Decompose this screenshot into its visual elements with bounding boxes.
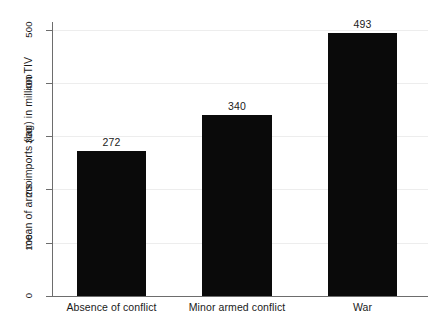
- bar-value-label: 272: [77, 136, 146, 148]
- y-axis-tick-label: 200: [23, 174, 34, 204]
- bar: [202, 115, 272, 296]
- y-axis-tick-label: 400: [23, 67, 34, 97]
- y-axis-tick-label: 300: [23, 121, 34, 151]
- x-axis-line: [52, 296, 428, 297]
- bar: [328, 33, 397, 296]
- y-axis-tick-label: 500: [23, 14, 34, 44]
- bar: [77, 151, 146, 296]
- bar-value-label: 493: [328, 18, 397, 30]
- y-axis-tick-label: 100: [23, 227, 34, 257]
- y-axis-line: [52, 22, 53, 296]
- x-axis-category-label: War: [283, 301, 441, 313]
- bar-chart: mean of arms imports (lag) in million TI…: [0, 0, 441, 326]
- bar-value-label: 340: [202, 100, 272, 112]
